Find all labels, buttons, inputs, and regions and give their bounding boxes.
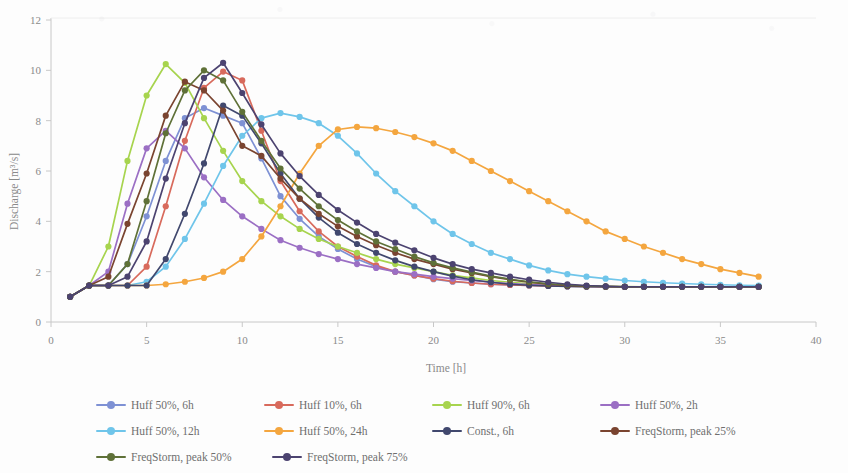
series-point [488,270,494,276]
series-point [182,138,188,144]
series-point [526,188,532,194]
legend-marker-icon [611,427,619,435]
x-tick-label: 40 [811,334,823,346]
legend-item-label: Const., 6h [467,425,514,437]
series-point [163,113,169,119]
series-point [488,279,494,285]
series-point [144,264,150,270]
series-point [220,197,226,203]
series-point [144,92,150,98]
legend-item[interactable]: Huff 10%, 6h [264,392,432,418]
series-point [297,173,303,179]
legend-swatch-icon [432,399,462,411]
series-point [373,238,379,244]
series-point [144,170,150,176]
series-point [316,236,322,242]
series-point [450,148,456,154]
series-point [201,105,207,111]
series-point [335,230,341,236]
series-point [603,228,609,234]
series-point [201,275,207,281]
legend-swatch-icon [432,425,462,437]
series-point [182,145,188,151]
series-point [545,267,551,273]
series-point [163,158,169,164]
series-point [660,250,666,256]
series-point [201,87,207,93]
series-point [469,266,475,272]
series-point [564,281,570,287]
series-point [316,143,322,149]
series-point [736,270,742,276]
series-point [335,217,341,223]
y-axis-title: Discharge [m³/s] [8,153,21,230]
series-point [182,236,188,242]
legend-marker-icon [611,401,619,409]
series-point [373,256,379,262]
series-point [756,284,762,290]
legend-item-label: FreqStorm, peak 75% [307,451,408,463]
series-point [507,256,513,262]
legend-item[interactable]: Huff 50%, 24h [264,418,432,444]
series-point [736,284,742,290]
series-point [277,237,283,243]
series-huff-50-2h [67,128,762,300]
series-point [163,281,169,287]
legend-swatch-icon [264,399,294,411]
series-point [526,277,532,283]
series-point [373,170,379,176]
series-point [354,241,360,247]
y-tick-label: 0 [36,316,42,328]
legend-item[interactable]: Huff 50%, 12h [96,418,264,444]
legend-item[interactable]: Const., 6h [432,418,600,444]
series-point [124,221,130,227]
series-point [201,174,207,180]
legend-item-label: Huff 90%, 6h [467,399,530,411]
series-point [297,245,303,251]
hydrograph-chart: 0246810120510152025303540 Discharge [m³/… [0,0,848,473]
series-point [526,262,532,268]
series-point [545,279,551,285]
series-point [354,150,360,156]
x-tick-label: 5 [144,334,150,346]
series-point [124,274,130,280]
x-tick-label: 10 [237,334,249,346]
series-point [679,256,685,262]
series-point [717,284,723,290]
series-point [220,68,226,74]
series-point [430,269,436,275]
series-point [335,207,341,213]
series-point [124,158,130,164]
series-point [756,274,762,280]
legend-item-label: Huff 10%, 6h [299,399,362,411]
legend-swatch-icon [600,425,630,437]
series-point [239,143,245,149]
series-point [354,228,360,234]
series-point [545,198,551,204]
series-point [316,203,322,209]
legend-item[interactable]: FreqStorm, peak 75% [272,444,448,470]
legend-item[interactable]: Huff 90%, 6h [432,392,600,418]
series-point [124,261,130,267]
series-point [392,129,398,135]
series-point [220,269,226,275]
series-point [583,218,589,224]
series-point [220,108,226,114]
legend-item-label: Huff 50%, 2h [635,399,698,411]
legend-item[interactable]: Huff 50%, 2h [600,392,768,418]
legend-marker-icon [443,427,451,435]
series-point [105,282,111,288]
series-point [67,294,73,300]
series-point [277,110,283,116]
series-point [354,250,360,256]
series-point [583,274,589,280]
series-point [564,208,570,214]
series-point [277,175,283,181]
legend-swatch-icon [96,451,126,463]
legend-item-label: Huff 50%, 24h [299,425,367,437]
legend-item[interactable]: FreqStorm, peak 50% [96,444,272,470]
series-point [182,87,188,93]
legend-item[interactable]: FreqStorm, peak 25% [600,418,768,444]
series-point [258,121,264,127]
legend-item[interactable]: Huff 50%, 6h [96,392,264,418]
